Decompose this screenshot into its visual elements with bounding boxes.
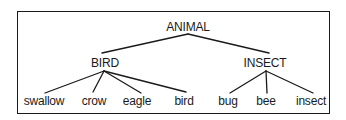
edge-insect-bug [230, 71, 266, 93]
node-eagle: eagle [123, 95, 151, 107]
node-bug: bug [218, 95, 237, 107]
edge-bird-eagle [104, 71, 141, 93]
edge-bird-bird [104, 71, 186, 92]
edge-animal-insect [188, 34, 269, 53]
edge-bird-swallow [45, 71, 104, 93]
node-insect-category: INSECT [244, 57, 287, 69]
node-bird-category: BIRD [91, 57, 119, 69]
node-animal: ANIMAL [166, 21, 209, 33]
node-crow: crow [82, 95, 107, 107]
node-bird-leaf: bird [174, 95, 193, 107]
edge-insect-bee [266, 71, 267, 93]
edge-animal-bird [102, 34, 188, 53]
node-insect-leaf: insect [296, 95, 326, 107]
node-swallow: swallow [24, 95, 65, 107]
edge-insect-insect [266, 71, 313, 93]
node-bee: bee [256, 95, 275, 107]
